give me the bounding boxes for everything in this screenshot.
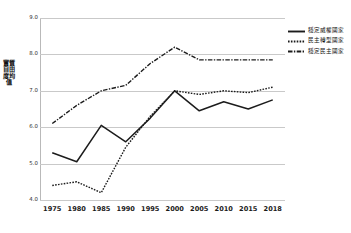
series-lines [40,18,285,200]
y-axis-tick-label: 9.0 [12,15,38,20]
x-axis-tick-label: 2018 [256,206,290,213]
series-line [52,47,273,123]
legend-label: 穩定民主國家 [308,49,344,55]
y-axis-tick-label: 8.0 [12,51,38,56]
y-axis-tick-label: 5.0 [12,161,38,166]
legend-item[interactable]: 穩定威權國家 [288,27,344,35]
legend-label: 穩定威權國家 [308,28,344,34]
plot-area [40,18,285,200]
chart-legend: 穩定威權國家民主轉型國家穩定民主國家 [288,27,344,55]
y-axis-tick-label: 7.0 [12,88,38,93]
legend-swatch-icon [288,38,305,45]
legend-item[interactable]: 穩定民主國家 [288,47,344,55]
y-axis-tick-label: 4.0 [12,197,38,202]
y-axis-tick-label: 6.0 [12,124,38,129]
legend-swatch-icon [288,48,305,55]
series-line [52,87,273,193]
gridline [40,200,285,201]
series-line [52,91,273,162]
legend-swatch-icon [288,28,305,35]
legend-item[interactable]: 民主轉型國家 [288,37,344,45]
line-chart: 實質自由度均值 9.08.07.06.05.04.0 1975198019851… [0,0,351,233]
y-axis-title: 實質自由度均值 [2,60,16,85]
legend-label: 民主轉型國家 [308,38,344,44]
